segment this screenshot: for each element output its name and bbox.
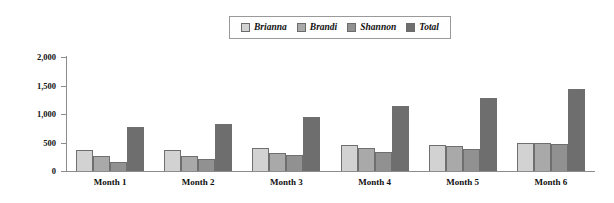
y-axis-tick-label: 0 (18, 167, 56, 176)
legend-swatch-brandi (297, 23, 306, 32)
bar-shannon-month-2[interactable] (198, 159, 215, 171)
bar-shannon-month-1[interactable] (110, 162, 127, 171)
bar-group (331, 57, 419, 171)
legend-swatch-brianna (241, 23, 250, 32)
bar-brandi-month-4[interactable] (358, 148, 375, 171)
bar-brandi-month-6[interactable] (534, 143, 551, 171)
legend-entry-brianna: Brianna (241, 23, 287, 33)
bar-brianna-month-6[interactable] (517, 143, 534, 171)
bar-shannon-month-3[interactable] (286, 155, 303, 171)
legend-entry-total: Total (406, 23, 439, 33)
bar-shannon-month-6[interactable] (551, 144, 568, 171)
bar-total-month-3[interactable] (303, 117, 320, 171)
legend-entry-shannon: Shannon (347, 23, 396, 33)
bar-group (154, 57, 242, 171)
y-axis-tick (61, 171, 66, 172)
bar-brandi-month-5[interactable] (446, 146, 463, 171)
bar-brianna-month-2[interactable] (164, 150, 181, 171)
bar-brianna-month-3[interactable] (252, 148, 269, 171)
y-axis-tick-label: 2,000 (18, 53, 56, 62)
bar-brianna-month-1[interactable] (76, 150, 93, 171)
bar-total-month-5[interactable] (480, 98, 497, 171)
y-axis-tick-label: 500 (18, 139, 56, 148)
bar-total-month-2[interactable] (215, 124, 232, 171)
bar-shannon-month-4[interactable] (375, 152, 392, 171)
bar-total-month-6[interactable] (568, 89, 585, 171)
legend-swatch-total (406, 23, 415, 32)
y-axis-tick-label: 1,500 (18, 82, 56, 91)
legend-entry-brandi: Brandi (297, 23, 337, 33)
x-axis-label-month-1: Month 1 (66, 178, 154, 187)
legend-label-shannon: Shannon (360, 23, 396, 33)
bar-group (242, 57, 330, 171)
x-axis-label-month-6: Month 6 (507, 178, 595, 187)
bar-brandi-month-3[interactable] (269, 153, 286, 171)
bar-total-month-4[interactable] (392, 106, 409, 171)
x-axis-label-month-4: Month 4 (331, 178, 419, 187)
bar-brandi-month-1[interactable] (93, 156, 110, 171)
x-axis-line (66, 171, 595, 172)
chart-legend: Brianna Brandi Shannon Total (229, 16, 451, 39)
bar-total-month-1[interactable] (127, 127, 144, 171)
x-axis-label-month-5: Month 5 (419, 178, 507, 187)
bar-brianna-month-4[interactable] (341, 145, 358, 171)
x-axis-label-month-3: Month 3 (242, 178, 330, 187)
bar-group (419, 57, 507, 171)
bar-brandi-month-2[interactable] (181, 156, 198, 171)
bar-shannon-month-5[interactable] (463, 149, 480, 171)
x-axis-label-month-2: Month 2 (154, 178, 242, 187)
bar-brianna-month-5[interactable] (429, 145, 446, 171)
legend-label-brianna: Brianna (254, 23, 287, 33)
legend-swatch-shannon (347, 23, 356, 32)
bar-groups (66, 57, 595, 171)
legend-label-brandi: Brandi (310, 23, 337, 33)
bar-group (507, 57, 595, 171)
y-axis-tick-label: 1,000 (18, 110, 56, 119)
legend-label-total: Total (419, 23, 439, 33)
bar-group (66, 57, 154, 171)
